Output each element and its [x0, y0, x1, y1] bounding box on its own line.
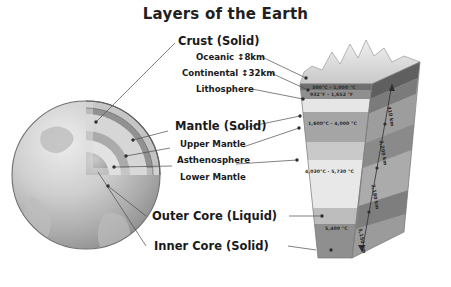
label-mantle: Mantle (Solid) [175, 119, 266, 133]
label-crust: Crust (Solid) [178, 34, 259, 48]
temp-crust-fahrenheit: 932°F - 1,652 °F [310, 92, 353, 97]
label-oceanic-crust: Oceanic ↕8km [196, 52, 265, 62]
globe-layer-rings [86, 101, 160, 175]
label-upper-mantle: Upper Mantle [180, 139, 246, 149]
temp-outer-core: 4,030°C - 5,730 °C [305, 169, 354, 174]
depth-tick [375, 166, 378, 169]
cutaway-globe [12, 101, 160, 254]
temp-crust-celsius: 300°C - 1,000 °C [312, 85, 356, 90]
temp-inner-core: 5,400 °C [325, 226, 348, 231]
depth-tick [367, 210, 370, 213]
label-outer-core: Outer Core (Liquid) [152, 209, 277, 223]
label-inner-core: Inner Core (Solid) [154, 239, 269, 253]
depth-tick [383, 122, 386, 125]
label-lower-mantle: Lower Mantle [180, 172, 246, 182]
label-asthenosphere: Asthenosphere [177, 155, 250, 165]
label-continental-crust: Continental ↕32km [182, 68, 275, 78]
temp-mantle: 1,600°C - 4,000 °C [308, 121, 357, 126]
earth-layers-diagram: Layers of the Earth [0, 0, 451, 287]
label-lithosphere: Lithosphere [196, 84, 254, 94]
